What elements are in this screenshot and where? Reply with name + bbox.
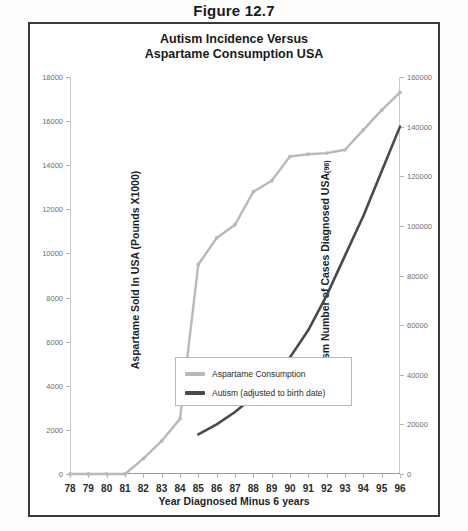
y-axis-right-tick <box>400 77 404 78</box>
x-axis-tick-label: 78 <box>64 483 75 494</box>
y-axis-right-tick <box>400 276 404 277</box>
x-axis-tick <box>308 474 309 478</box>
chart-container: Autism Incidence Versus Aspartame Consum… <box>28 22 440 517</box>
series-point <box>288 155 292 159</box>
x-axis-tick-label: 79 <box>83 483 94 494</box>
y-axis-right-tick-label: 40000 <box>407 370 428 379</box>
y-axis-left-tick-label: 12000 <box>42 205 63 214</box>
legend-item: Autism (adjusted to birth date) <box>185 385 325 401</box>
y-axis-right-tick <box>400 176 404 177</box>
chart-legend: Aspartame ConsumptionAutism (adjusted to… <box>175 357 352 406</box>
x-axis-tick-label: 81 <box>119 483 130 494</box>
x-axis-tick-label: 80 <box>101 483 112 494</box>
x-axis-tick <box>272 474 273 478</box>
x-axis-title: Year Diagnosed Minus 6 years <box>30 495 438 507</box>
chart-title-line-1: Autism Incidence Versus <box>30 32 438 47</box>
x-axis-tick-label: 95 <box>376 483 387 494</box>
x-axis-tick <box>290 474 291 478</box>
x-axis-tick-label: 84 <box>174 483 185 494</box>
y-axis-left-tick-label: 8000 <box>46 293 63 302</box>
y-axis-right-tick-label: 0 <box>407 470 411 479</box>
x-axis-tick-label: 83 <box>156 483 167 494</box>
x-axis-tick <box>162 474 163 478</box>
x-axis-tick <box>180 474 181 478</box>
series-point <box>123 472 127 476</box>
x-axis-tick <box>253 474 254 478</box>
x-axis-tick-label: 91 <box>303 483 314 494</box>
x-axis-tick <box>382 474 383 478</box>
y-axis-left-tick-label: 2000 <box>46 425 63 434</box>
series-layer <box>70 77 400 474</box>
y-axis-left-tick-label: 0 <box>59 470 63 479</box>
x-axis-tick-label: 82 <box>138 483 149 494</box>
x-axis-tick <box>345 474 346 478</box>
x-axis-tick <box>400 474 401 478</box>
series-point <box>196 263 200 267</box>
legend-item: Aspartame Consumption <box>185 366 306 382</box>
y-axis-right-tick <box>400 226 404 227</box>
series-line <box>70 92 400 474</box>
x-axis-tick <box>143 474 144 478</box>
y-axis-left-tick-label: 4000 <box>46 381 63 390</box>
legend-swatch <box>185 372 205 376</box>
y-axis-right-tick <box>400 375 404 376</box>
plot-area: 0200040006000800010000120001400016000180… <box>70 77 400 474</box>
x-axis-tick <box>327 474 328 478</box>
x-axis-tick-label: 96 <box>394 483 405 494</box>
y-axis-left-tick-label: 6000 <box>46 337 63 346</box>
x-axis-tick <box>198 474 199 478</box>
series-point <box>86 472 90 476</box>
series-point <box>251 190 255 194</box>
x-axis-tick-label: 85 <box>193 483 204 494</box>
series-point <box>160 439 164 443</box>
series-point <box>380 108 384 112</box>
y-axis-left-tick-label: 14000 <box>42 161 63 170</box>
x-axis-tick-label: 87 <box>229 483 240 494</box>
series-point <box>141 457 145 461</box>
y-axis-right-tick-label: 80000 <box>407 271 428 280</box>
series-point <box>325 151 329 155</box>
x-axis-tick-label: 94 <box>358 483 369 494</box>
x-axis-tick-label: 90 <box>284 483 295 494</box>
series-point <box>215 236 219 240</box>
y-axis-right-tick-label: 140000 <box>407 122 432 131</box>
legend-label: Aspartame Consumption <box>212 369 306 379</box>
x-axis-tick <box>235 474 236 478</box>
legend-label: Autism (adjusted to birth date) <box>212 388 325 398</box>
y-axis-right-tick-label: 120000 <box>407 172 432 181</box>
figure-page: Figure 12.7 Autism Incidence Versus Aspa… <box>0 0 468 531</box>
x-axis-tick <box>217 474 218 478</box>
series-point <box>178 417 182 421</box>
y-axis-right-tick-label: 60000 <box>407 321 428 330</box>
chart-title-line-2: Aspartame Consumption USA <box>30 47 438 62</box>
y-axis-right-tick <box>400 325 404 326</box>
y-axis-right-tick-label: 100000 <box>407 221 432 230</box>
figure-caption: Figure 12.7 <box>0 2 468 19</box>
y-axis-right-tick-label: 160000 <box>407 73 432 82</box>
series-point <box>398 91 402 95</box>
series-point <box>68 472 72 476</box>
series-point <box>343 148 347 152</box>
series-point <box>270 179 274 183</box>
chart-title: Autism Incidence Versus Aspartame Consum… <box>30 32 438 62</box>
y-axis-left-tick-label: 18000 <box>42 73 63 82</box>
x-axis-tick-label: 86 <box>211 483 222 494</box>
x-axis-tick-label: 93 <box>339 483 350 494</box>
x-axis-tick <box>363 474 364 478</box>
series-point <box>105 472 109 476</box>
series-point <box>233 223 237 227</box>
series-point <box>306 152 310 156</box>
x-axis-tick-label: 88 <box>248 483 259 494</box>
series-point <box>361 128 365 132</box>
x-axis-tick-label: 92 <box>321 483 332 494</box>
y-axis-right-tick-label: 20000 <box>407 420 428 429</box>
legend-swatch <box>185 391 205 395</box>
x-axis-tick-label: 89 <box>266 483 277 494</box>
y-axis-left-tick-label: 10000 <box>42 249 63 258</box>
y-axis-left-tick-label: 16000 <box>42 117 63 126</box>
y-axis-right-tick <box>400 424 404 425</box>
